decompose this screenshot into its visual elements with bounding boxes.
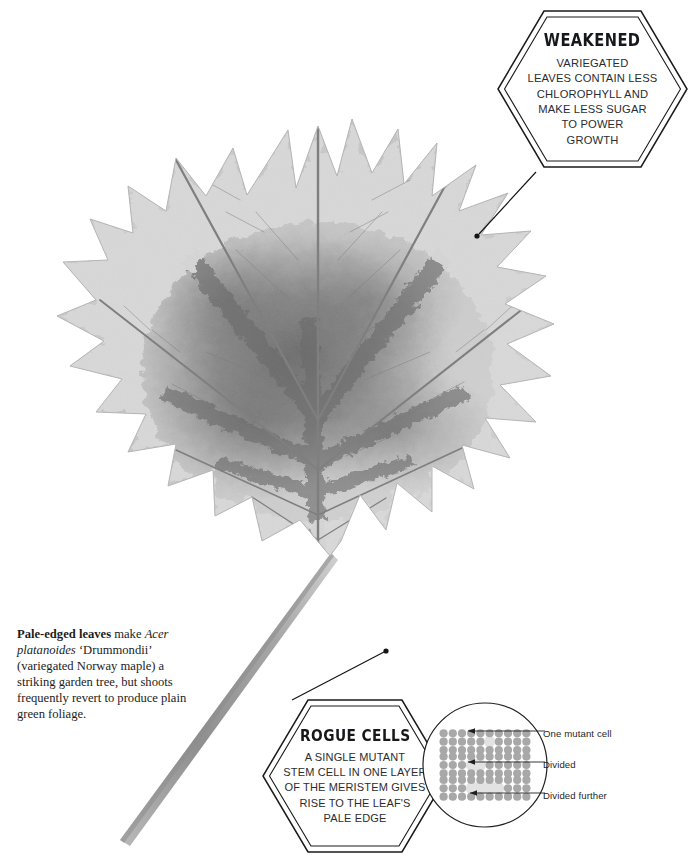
- normal-cell: [522, 784, 530, 792]
- normal-cell: [449, 729, 457, 737]
- caption-lead: Pale-edged leaves: [17, 627, 111, 641]
- callout-body-rogue-cells: A SINGLE MUTANT STEM CELL IN ONE LAYER O…: [283, 750, 426, 826]
- mutant-cell: [476, 784, 484, 792]
- callout-line: VARIEGATED: [528, 56, 658, 71]
- callout-title-rogue-cells: ROGUE CELLS: [300, 726, 411, 745]
- normal-cell: [440, 784, 448, 792]
- normal-cell: [449, 761, 457, 769]
- callout-title-weakened: WEAKENED: [544, 30, 641, 50]
- callout-line: OF THE MERISTEM GIVES: [283, 780, 426, 795]
- normal-cell: [449, 776, 457, 784]
- normal-cell: [513, 784, 521, 792]
- normal-cell: [504, 761, 512, 769]
- normal-cell: [513, 761, 521, 769]
- callout-line: MAKE LESS SUGAR: [528, 102, 658, 117]
- normal-cell: [486, 753, 494, 761]
- normal-cell: [513, 776, 521, 784]
- normal-cell: [449, 738, 457, 746]
- normal-cell: [440, 729, 448, 737]
- normal-cell: [486, 761, 494, 769]
- normal-cell: [495, 753, 503, 761]
- normal-cell: [513, 729, 521, 737]
- normal-cell: [476, 729, 484, 737]
- legend-label-one-mutant-cell: One mutant cell: [543, 728, 612, 739]
- normal-cell: [504, 776, 512, 784]
- legend-label-divided-further: Divided further: [543, 790, 607, 801]
- normal-cell: [476, 793, 484, 801]
- leaf-veins: [100, 128, 534, 552]
- normal-cell: [486, 729, 494, 737]
- normal-cell: [495, 776, 503, 784]
- leader-line-weakened: [479, 172, 536, 234]
- normal-cell: [467, 793, 475, 801]
- normal-cell: [486, 776, 494, 784]
- normal-cell: [486, 793, 494, 801]
- normal-cell: [476, 753, 484, 761]
- caption-cultivar: ‘Drummondii’: [76, 643, 152, 657]
- normal-cell: [522, 738, 530, 746]
- mutant-cell-diagram: [420, 700, 550, 830]
- callout-line: LEAVES CONTAIN LESS: [528, 71, 658, 86]
- caption-rest: (variegated Norway maple) a striking gar…: [17, 659, 186, 721]
- normal-cell: [458, 761, 466, 769]
- mutant-cell: [467, 784, 475, 792]
- callout-body-weakened: VARIEGATED LEAVES CONTAIN LESS CHLOROPHY…: [528, 56, 658, 148]
- callout-line: STEM CELL IN ONE LAYER: [283, 765, 426, 780]
- normal-cell: [449, 753, 457, 761]
- normal-cell: [440, 738, 448, 746]
- mutant-cell: [486, 738, 494, 746]
- normal-cell: [495, 738, 503, 746]
- normal-cell: [440, 753, 448, 761]
- normal-cell: [440, 761, 448, 769]
- normal-cell: [522, 776, 530, 784]
- normal-cell: [504, 784, 512, 792]
- caption-after-lead: make: [111, 627, 141, 641]
- legend-label-divided: Divided: [543, 759, 576, 770]
- infographic-page: WEAKENED VARIEGATED LEAVES CONTAIN LESS …: [0, 0, 696, 858]
- callout-line: A SINGLE MUTANT: [283, 750, 426, 765]
- normal-cell: [458, 753, 466, 761]
- callout-line: TO POWER: [528, 117, 658, 132]
- normal-cell: [440, 776, 448, 784]
- mutant-cell: [495, 784, 503, 792]
- mutant-cell: [476, 761, 484, 769]
- normal-cell: [458, 776, 466, 784]
- normal-cell: [449, 784, 457, 792]
- normal-cell: [504, 729, 512, 737]
- normal-cell: [513, 738, 521, 746]
- normal-cell: [495, 729, 503, 737]
- normal-cell: [467, 738, 475, 746]
- callout-line: PALE EDGE: [283, 811, 426, 826]
- normal-cell: [504, 753, 512, 761]
- leaf-caption: Pale-edged leaves make Acer platanoides …: [17, 626, 201, 723]
- normal-cell: [467, 729, 475, 737]
- leader-dot-weakened: [474, 233, 479, 238]
- mutant-cell: [467, 761, 475, 769]
- normal-cell: [467, 753, 475, 761]
- normal-cell: [522, 729, 530, 737]
- callout-weakened: WEAKENED VARIEGATED LEAVES CONTAIN LESS …: [496, 9, 689, 169]
- leader-dot-rogue-cells: [383, 648, 388, 653]
- normal-cell: [458, 729, 466, 737]
- normal-cell: [449, 793, 457, 801]
- callout-line: GROWTH: [528, 133, 658, 148]
- normal-cell: [495, 793, 503, 801]
- normal-cell: [476, 776, 484, 784]
- normal-cell: [458, 793, 466, 801]
- normal-cell: [513, 793, 521, 801]
- normal-cell: [495, 761, 503, 769]
- leader-line-rogue-cells: [292, 652, 384, 700]
- normal-cell: [522, 753, 530, 761]
- normal-cell: [522, 793, 530, 801]
- mutant-cell: [486, 784, 494, 792]
- cell-diagram-legend: One mutant cell Divided Divided further: [540, 712, 690, 812]
- normal-cell: [522, 761, 530, 769]
- normal-cell: [458, 784, 466, 792]
- normal-cell: [504, 793, 512, 801]
- normal-cell: [476, 738, 484, 746]
- callout-line: RISE TO THE LEAF'S: [283, 796, 426, 811]
- cell-grid: [440, 729, 531, 801]
- normal-cell: [467, 776, 475, 784]
- callout-line: CHLOROPHYLL AND: [528, 87, 658, 102]
- normal-cell: [513, 753, 521, 761]
